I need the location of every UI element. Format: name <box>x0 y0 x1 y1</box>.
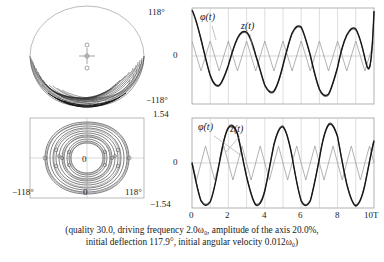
figure-root: 0 −118° 0 118° φ(t) z(t) <box>0 0 384 262</box>
phase-xtick-118: 118° <box>125 188 142 197</box>
phase-portrait-panel: 0 −118° 0 118° <box>12 116 162 204</box>
phi-curve-label: φ(t) <box>200 12 215 22</box>
ts-xtick-2: 2 <box>225 211 230 220</box>
ts-xtick-0: 0 <box>189 211 194 220</box>
z-curve-label: z(t) <box>241 21 254 31</box>
pivot-crosshair-icon <box>79 48 95 64</box>
phi-z-timeseries-panel: φ(t) z(t) <box>190 6 376 108</box>
ts-xtick-4: 4 <box>262 211 267 220</box>
ts-bot-ytick-neg154: −1.54 <box>150 200 171 209</box>
ts-xtick-10T: 10T <box>364 211 379 220</box>
ts-top-ytick-neg118: −118° <box>146 96 168 105</box>
phidot-curve-label: φ̇(t) <box>198 122 213 132</box>
phase-xtick-zero: 0 <box>83 188 88 197</box>
phidot-zdot-timeseries-svg <box>190 116 376 212</box>
caption-line-1: (quality 30.0, driving frequency 2.0ω₀, … <box>0 224 384 236</box>
phi-z-timeseries-svg <box>190 6 376 108</box>
ts-top-ytick-zero: 0 <box>173 51 178 60</box>
phase-xtick-neg118: −118° <box>12 188 34 197</box>
zdot-curve-label: ż(t) <box>230 124 243 134</box>
spatial-trajectory-svg <box>12 2 162 114</box>
caption-line-2: initial deflection 117.9°, initial angul… <box>0 236 384 248</box>
ts-xtick-8: 8 <box>335 211 340 220</box>
figure-caption: (quality 30.0, driving frequency 2.0ω₀, … <box>0 224 384 248</box>
phase-origin-label: 0 <box>82 154 87 164</box>
ts-top-ytick-118: 118° <box>148 8 165 17</box>
phidot-zdot-timeseries-panel: φ̇(t) ż(t) <box>190 116 376 212</box>
ts-bot-ytick-zero: 0 <box>173 158 178 167</box>
spatial-trajectory-panel <box>12 2 162 114</box>
ts-bot-ytick-154: 1.54 <box>153 110 169 119</box>
ts-xtick-6: 6 <box>298 211 303 220</box>
